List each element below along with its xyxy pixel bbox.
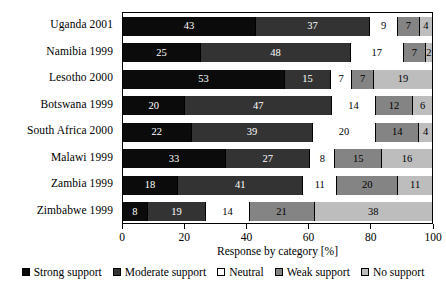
x-axis-tick-label: 0 [119, 231, 125, 243]
bar-segment-value: 17 [372, 48, 383, 59]
bar-segment: 27 [226, 149, 310, 168]
bar-segment-value: 21 [276, 207, 287, 218]
bar-segment-value: 25 [156, 48, 167, 59]
bar-row: 4337974 [123, 17, 432, 36]
bar-segment-value: 20 [362, 180, 373, 191]
legend-item[interactable]: Strong support [22, 266, 102, 278]
bar-segment: 20 [313, 123, 375, 142]
bar-segment: 47 [185, 96, 332, 115]
x-axis-tick [308, 224, 309, 229]
x-axis-ticks [122, 224, 433, 229]
legend-item[interactable]: Neutral [217, 266, 263, 278]
y-axis-label: South Africa 2000 [0, 125, 113, 137]
bar-segment: 14 [376, 123, 420, 142]
bar-segment: 2 [426, 43, 432, 62]
bar-segment-value: 14 [392, 127, 403, 138]
bar-segment-value: 19 [398, 74, 409, 85]
bar-segment-value: 14 [348, 101, 359, 112]
bar-segment: 53 [123, 70, 285, 89]
y-axis-label: Zambia 1999 [0, 178, 113, 190]
bar-segment: 21 [250, 202, 315, 221]
legend-item[interactable]: Weak support [275, 266, 350, 278]
bar-segment: 41 [178, 176, 303, 195]
bars-container: 4337974254817725315771920471412622392014… [123, 13, 432, 223]
stacked-bar-chart: Uganda 2001Namibia 1999Lesotho 2000Botsw… [0, 0, 446, 286]
bar-segment-value: 11 [410, 180, 420, 191]
bar-segment: 4 [420, 17, 432, 36]
x-axis-tick [122, 224, 123, 229]
bar-segment: 4 [419, 123, 431, 142]
bar-segment: 6 [413, 96, 432, 115]
bar-segment-value: 16 [402, 154, 413, 165]
bar-segment: 38 [315, 202, 432, 221]
bar-segment: 48 [201, 43, 351, 62]
legend: Strong supportModerate supportNeutralWea… [0, 266, 446, 278]
bar-segment-value: 43 [184, 21, 195, 32]
bar-segment-value: 22 [152, 127, 163, 138]
bar-segment-value: 7 [360, 74, 365, 85]
bar-segment: 39 [192, 123, 314, 142]
x-axis-tick-label: 40 [241, 231, 253, 243]
bar-segment: 22 [123, 123, 192, 142]
bar-segment: 15 [285, 70, 331, 89]
bar-segment: 8 [123, 202, 148, 221]
bar-segment: 18 [123, 176, 178, 195]
legend-label: Weak support [287, 266, 350, 278]
legend-label: Neutral [229, 266, 263, 278]
legend-swatch-icon [275, 268, 283, 276]
x-axis-tick [246, 224, 247, 229]
bar-row: 25481772 [123, 43, 432, 62]
bar-segment-value: 12 [389, 101, 400, 112]
bar-segment: 19 [374, 70, 432, 89]
legend-label: Moderate support [125, 266, 206, 278]
bar-segment-value: 8 [132, 207, 137, 218]
bar-segment: 14 [206, 202, 249, 221]
bar-row: 1841112011 [123, 176, 432, 195]
bar-segment-value: 48 [270, 48, 281, 59]
plot-area: 4337974254817725315771920471412622392014… [122, 12, 433, 224]
bar-segment-value: 41 [235, 180, 246, 191]
bar-segment: 17 [351, 43, 404, 62]
bar-row: 819142138 [123, 202, 432, 221]
bar-segment-value: 14 [222, 207, 233, 218]
bar-segment: 7 [352, 70, 373, 89]
x-axis-tick [184, 224, 185, 229]
x-axis-tick [370, 224, 371, 229]
bar-segment-value: 27 [262, 154, 273, 165]
y-axis-label: Malawi 1999 [0, 152, 113, 164]
bar-segment-value: 8 [320, 154, 325, 165]
bar-segment-value: 38 [368, 207, 379, 218]
legend-label: Strong support [34, 266, 102, 278]
bar-segment-value: 20 [339, 127, 350, 138]
bar-segment-value: 7 [339, 74, 344, 85]
bar-segment: 7 [398, 17, 420, 36]
bar-segment: 43 [123, 17, 256, 36]
legend-item[interactable]: Moderate support [113, 266, 206, 278]
bar-segment: 11 [398, 176, 432, 195]
bar-row: 332781516 [123, 149, 432, 168]
bar-segment: 25 [123, 43, 201, 62]
bar-segment-value: 18 [145, 180, 156, 191]
bar-row: 53157719 [123, 70, 432, 89]
bar-segment-value: 20 [148, 101, 159, 112]
bar-row: 223920144 [123, 123, 432, 142]
bar-segment: 11 [303, 176, 337, 195]
y-axis-label: Lesotho 2000 [0, 72, 113, 84]
x-axis-tick-label: 20 [178, 231, 190, 243]
bar-segment: 12 [376, 96, 413, 115]
x-axis-tick [433, 224, 434, 229]
legend-item[interactable]: No support [361, 266, 424, 278]
bar-segment: 7 [331, 70, 352, 89]
bar-segment-value: 19 [171, 207, 182, 218]
y-axis-label: Uganda 2001 [0, 19, 113, 31]
x-axis-tick-label: 60 [303, 231, 315, 243]
bar-segment-value: 33 [169, 154, 180, 165]
x-axis-title: Response by category [%] [122, 245, 433, 258]
bar-segment: 8 [310, 149, 335, 168]
y-axis-category-labels: Uganda 2001Namibia 1999Lesotho 2000Botsw… [0, 12, 118, 224]
bar-segment-value: 11 [315, 180, 325, 191]
x-axis-tick-label: 80 [365, 231, 377, 243]
bar-segment: 16 [382, 149, 432, 168]
y-axis-label: Botswana 1999 [0, 99, 113, 111]
bar-segment-value: 39 [247, 127, 258, 138]
